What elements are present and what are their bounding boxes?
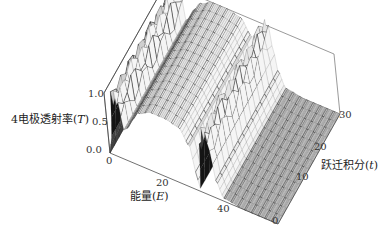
y-tick-0: 0 xyxy=(272,216,278,226)
z-tick-0.0: 0.0 xyxy=(86,145,102,155)
x-axis-label: 能量(E) xyxy=(130,191,169,202)
x-tick-40: 40 xyxy=(217,204,230,214)
z-tick-0.5: 0.5 xyxy=(92,117,108,127)
z-tick-1.0: 1.0 xyxy=(88,89,104,99)
x-tick-0: 0 xyxy=(106,156,112,166)
y-tick-20: 20 xyxy=(314,142,327,152)
y-axis-label: 跃迁积分(t) xyxy=(321,160,378,171)
x-tick-20: 20 xyxy=(156,178,169,188)
z-axis-label: 4电极透射率(T) xyxy=(11,114,89,125)
y-tick-30: 30 xyxy=(339,110,352,120)
y-tick-10: 10 xyxy=(296,172,309,182)
